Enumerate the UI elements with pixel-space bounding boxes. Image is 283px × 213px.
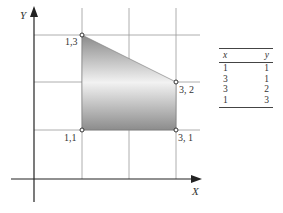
cell-x: 3 [219, 84, 246, 95]
table-row: 32 [219, 84, 273, 95]
cell-y: 1 [246, 63, 273, 74]
coordinates-table: x y 11 31 32 13 [219, 48, 273, 108]
table-row: 13 [219, 95, 273, 108]
header-x: x [219, 49, 246, 63]
cell-y: 3 [246, 95, 273, 108]
cell-x: 3 [219, 74, 246, 85]
point-label-1-1: 1,1 [64, 132, 77, 143]
cell-y: 1 [246, 74, 273, 85]
table-row: 31 [219, 74, 273, 85]
y-axis-label: Y [20, 9, 28, 21]
point-label-3-2: 3, 2 [179, 84, 194, 95]
table-row: 11 [219, 63, 273, 74]
point-label-3-1: 3, 1 [178, 132, 193, 143]
x-axis-arrow-icon [191, 175, 202, 183]
point-label-1-3: 1,3 [65, 36, 78, 47]
cell-y: 2 [246, 84, 273, 95]
cell-x: 1 [219, 63, 246, 74]
table-header-row: x y [219, 49, 273, 63]
header-y: y [246, 49, 273, 63]
y-axis-arrow-icon [30, 6, 38, 17]
x-axis-label: X [191, 185, 200, 197]
cell-x: 1 [219, 95, 246, 108]
